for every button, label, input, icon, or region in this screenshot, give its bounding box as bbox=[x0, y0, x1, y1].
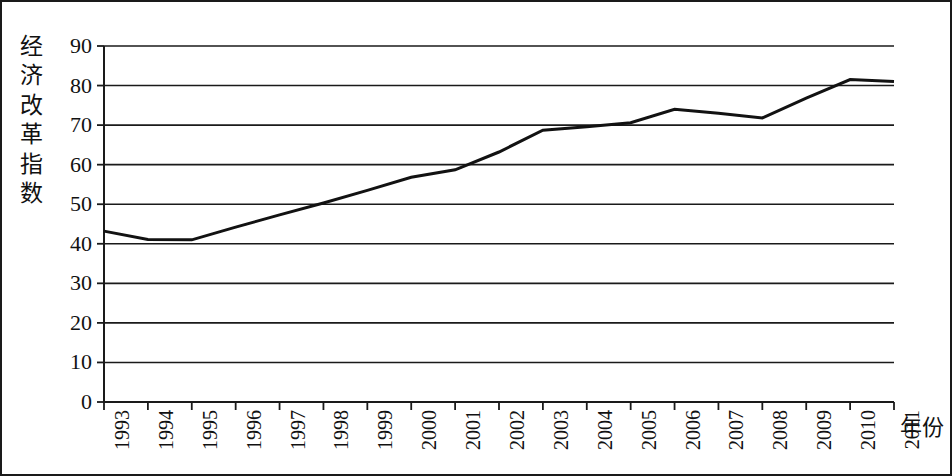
x-tick-label: 2004 bbox=[595, 410, 615, 450]
x-tick-label: 2007 bbox=[726, 410, 746, 450]
x-tick-label: 2000 bbox=[419, 410, 439, 450]
y-tick-label: 10 bbox=[46, 351, 92, 373]
x-axis-title: 年份 bbox=[900, 417, 944, 439]
x-tick-label: 1993 bbox=[112, 410, 132, 450]
y-tick-label: 80 bbox=[46, 75, 92, 97]
x-tick-label: 1996 bbox=[244, 410, 264, 450]
y-tick-label: 30 bbox=[46, 272, 92, 294]
x-tick-label: 1998 bbox=[331, 410, 351, 450]
y-tick-label: 20 bbox=[46, 312, 92, 334]
x-tick-label: 2010 bbox=[858, 410, 878, 450]
plot-area bbox=[104, 46, 894, 402]
x-tick-label: 1999 bbox=[375, 410, 395, 450]
x-tick-label: 2002 bbox=[507, 410, 527, 450]
x-tick-label: 2001 bbox=[463, 410, 483, 450]
x-tick-label: 2005 bbox=[639, 410, 659, 450]
x-tick-label: 2008 bbox=[770, 410, 790, 450]
horizontal-gridlines bbox=[104, 46, 894, 402]
y-tick-label: 40 bbox=[46, 233, 92, 255]
y-tick-label: 0 bbox=[46, 391, 92, 413]
x-tick-label: 1997 bbox=[288, 410, 308, 450]
chart-figure: 经 济 改 革 指 数 0102030405060708090 19931994… bbox=[0, 0, 952, 476]
y-tick-label: 70 bbox=[46, 114, 92, 136]
y-axis-tick-labels: 0102030405060708090 bbox=[46, 46, 92, 402]
y-axis-tick-marks bbox=[97, 46, 104, 402]
x-tick-label: 2003 bbox=[551, 410, 571, 450]
y-axis-title: 经 济 改 革 指 数 bbox=[14, 32, 48, 209]
x-tick-label: 1994 bbox=[156, 410, 176, 450]
x-tick-label: 2009 bbox=[814, 410, 834, 450]
chart-svg bbox=[104, 46, 894, 402]
x-axis-tick-labels: 1993199419951996199719981999200020012002… bbox=[104, 406, 894, 474]
x-tick-label: 1995 bbox=[200, 410, 220, 450]
y-tick-label: 50 bbox=[46, 193, 92, 215]
y-tick-label: 90 bbox=[46, 35, 92, 57]
x-tick-label: 2006 bbox=[683, 410, 703, 450]
data-series-line bbox=[104, 80, 894, 240]
y-tick-label: 60 bbox=[46, 154, 92, 176]
